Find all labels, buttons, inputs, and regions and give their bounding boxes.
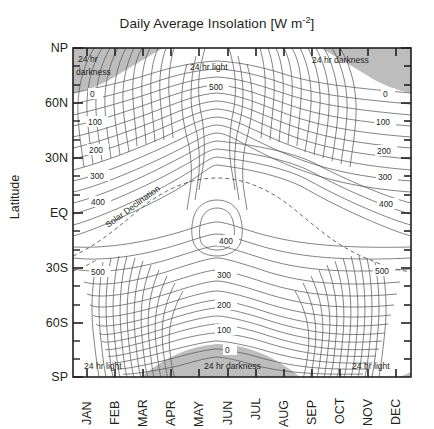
- contour-label: 100: [374, 116, 396, 127]
- contour-label: 100: [215, 324, 237, 335]
- contour-label-text: 100: [217, 325, 231, 335]
- contour-label: 300: [215, 269, 237, 280]
- annotation-24hr-darkness-south: 24 hr darkness: [204, 361, 261, 371]
- contour-label-text: 300: [217, 270, 231, 280]
- contour-label-text: 400: [91, 197, 105, 207]
- contour-label-text: 500: [91, 267, 105, 277]
- contour-label: 500: [373, 265, 395, 276]
- contour-label-text: 0: [225, 345, 230, 355]
- contour-label-text: 400: [219, 236, 233, 246]
- contour-label: 200: [375, 145, 397, 156]
- contour-label: 400: [89, 196, 111, 207]
- contour-label-text: 0: [90, 89, 95, 99]
- annotation-24hr-light-north: 24 hr light: [190, 62, 228, 72]
- contour-plot: 24 hr darkness 24 hr light 24 hr darknes…: [0, 0, 434, 429]
- contour-label-text: 100: [376, 117, 390, 127]
- contour-label: 300: [88, 170, 110, 181]
- contour-label-text: 200: [89, 145, 103, 155]
- annotation-24hr-light-se: 24 hr light: [352, 361, 390, 371]
- contour-label: 500: [207, 81, 229, 92]
- contour-label-text: 100: [88, 117, 102, 127]
- contour-label-text: 0: [383, 89, 388, 99]
- contour-label: 0: [381, 88, 395, 99]
- contour-label-text: 200: [217, 300, 231, 310]
- contour-label-text: 200: [377, 146, 391, 156]
- contour-label: 300: [376, 171, 398, 182]
- contour-label: 100: [86, 116, 108, 127]
- contour-label: 400: [377, 198, 399, 209]
- insolation-figure: Daily Average Insolation [W m-2] Latitud…: [0, 0, 434, 429]
- contour-label: 500: [89, 266, 111, 277]
- contour-label-text: 500: [209, 82, 223, 92]
- contour-label-text: 400: [379, 199, 393, 209]
- contour-label: 400: [217, 235, 239, 246]
- annotation-24hr-darkness-ne: 24 hr darkness: [312, 55, 369, 65]
- annotation-24hr-darkness-nw-line2: darkness: [76, 67, 111, 77]
- annotation-24hr-darkness-nw-line1: 24 hr: [78, 54, 98, 64]
- contour-label: 0: [88, 88, 103, 99]
- contour-label-text: 300: [90, 171, 104, 181]
- contour-label: 200: [87, 144, 109, 155]
- contour-label-text: 500: [375, 266, 389, 276]
- contour-label: 200: [215, 299, 237, 310]
- contour-label: 0: [223, 344, 237, 355]
- annotation-24hr-light-sw: 24 hr light: [84, 361, 122, 371]
- contour-label-text: 300: [378, 172, 392, 182]
